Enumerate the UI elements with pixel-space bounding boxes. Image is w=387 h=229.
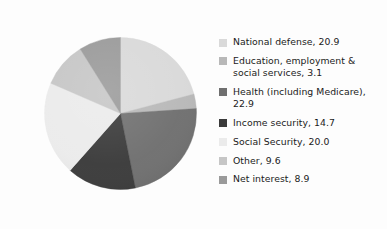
legend-item-other[interactable]: Other, 9.6 [219,155,385,167]
legend-swatch-icon [219,57,227,65]
legend-swatch-icon [219,119,227,127]
legend-item-net-interest[interactable]: Net interest, 8.9 [219,173,385,185]
legend-item-label: Social Security, 20.0 [233,136,329,148]
legend-item-label: Health (including Medicare), 22.9 [233,86,366,111]
legend-swatch-icon [219,157,227,165]
legend-item-education-employment-social-services[interactable]: Education, employment & social services,… [219,55,385,80]
pie-chart-page: National defense, 20.9 Education, employ… [0,0,387,229]
legend-swatch-icon [219,138,227,146]
legend-item-income-security[interactable]: Income security, 14.7 [219,117,385,129]
chart-area: National defense, 20.9 Education, employ… [0,0,387,229]
legend-swatch-icon [219,176,227,184]
pie-svg [44,37,197,190]
legend-item-health-including-medicare[interactable]: Health (including Medicare), 22.9 [219,86,385,111]
legend-swatch-icon [219,39,227,47]
legend-item-national-defense[interactable]: National defense, 20.9 [219,36,385,48]
legend-item-social-security[interactable]: Social Security, 20.0 [219,136,385,148]
legend-swatch-icon [219,88,227,96]
legend-item-label: Education, employment & social services,… [233,55,355,80]
legend-item-label: National defense, 20.9 [233,36,339,48]
legend-item-label: Income security, 14.7 [233,117,335,129]
pie-shading [45,38,197,190]
legend-item-label: Other, 9.6 [233,155,281,167]
chart-legend: National defense, 20.9 Education, employ… [219,36,385,192]
pie-chart [44,37,197,190]
legend-item-label: Net interest, 8.9 [233,173,310,185]
